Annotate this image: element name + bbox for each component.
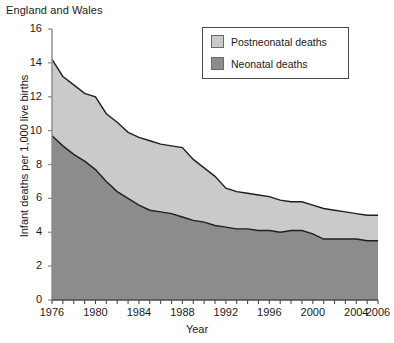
legend-label-postneonatal: Postneonatal deaths (231, 36, 327, 48)
x-tick-label: 1992 (209, 306, 243, 318)
y-tick-label: 4 (8, 225, 42, 237)
x-tick-label: 2006 (361, 306, 394, 318)
x-tick-label: 1988 (165, 306, 199, 318)
y-tick-label: 14 (8, 56, 42, 68)
legend-label-neonatal: Neonatal deaths (231, 58, 307, 70)
x-tick-label: 1996 (252, 306, 286, 318)
legend-item-neonatal: Neonatal deaths (211, 57, 307, 70)
x-axis-label: Year (0, 323, 394, 335)
chart-container: England and Wales Infant deaths per 1,00… (0, 0, 394, 343)
legend-swatch-postneonatal (211, 35, 224, 48)
y-tick-label: 6 (8, 191, 42, 203)
y-tick-label: 2 (8, 259, 42, 271)
x-tick-label: 1984 (122, 306, 156, 318)
chart-legend: Postneonatal deaths Neonatal deaths (202, 27, 349, 79)
x-tick-label: 2000 (296, 306, 330, 318)
y-tick-label: 10 (8, 124, 42, 136)
legend-swatch-neonatal (211, 57, 224, 70)
y-tick-label: 0 (8, 293, 42, 305)
y-tick-label: 12 (8, 90, 42, 102)
x-tick-label: 1976 (35, 306, 69, 318)
legend-item-postneonatal: Postneonatal deaths (211, 35, 327, 48)
x-tick-label: 1980 (78, 306, 112, 318)
y-tick-label: 16 (8, 22, 42, 34)
y-tick-label: 8 (8, 158, 42, 170)
